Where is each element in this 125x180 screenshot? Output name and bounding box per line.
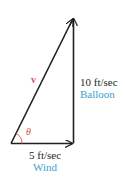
resultant-label: v xyxy=(31,74,36,86)
wind-magnitude-label: 5 ft/sec xyxy=(29,149,61,161)
wind-label: Wind xyxy=(33,161,57,173)
balloon-magnitude-label: 10 ft/sec xyxy=(80,76,118,88)
resultant-vector-arrow xyxy=(11,20,73,144)
angle-label: θ xyxy=(26,126,31,138)
balloon-label: Balloon xyxy=(80,88,115,100)
angle-arc xyxy=(16,134,22,144)
